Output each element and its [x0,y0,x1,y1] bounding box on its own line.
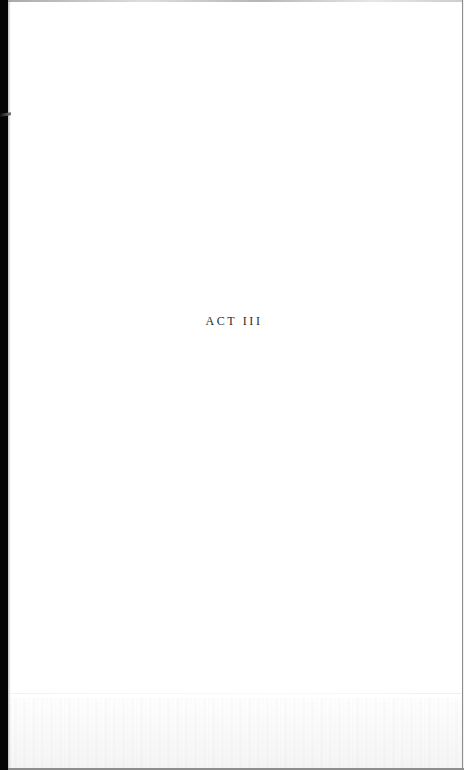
scanned-book-page: ACT III [0,0,464,770]
page-crease-line [10,693,462,694]
top-page-edge [8,0,464,2]
act-heading: ACT III [0,313,464,329]
scan-noise-band [10,698,462,768]
